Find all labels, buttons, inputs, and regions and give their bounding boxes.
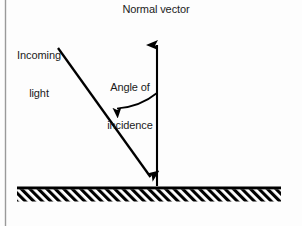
surface-top-line [17, 187, 281, 190]
angle-of-incidence-label-line1: Angle of [94, 81, 166, 94]
surface-hatching [17, 190, 281, 202]
incoming-light-label-line2: light [8, 87, 70, 100]
angle-of-incidence-label-line2: incidence [94, 119, 166, 132]
incoming-light-label-line1: Incoming [8, 49, 70, 62]
incoming-light-label: Incoming light [8, 24, 70, 124]
normal-vector-label: Normal vector [111, 3, 201, 16]
surface-group [17, 187, 281, 202]
angle-of-incidence-label: Angle of incidence [94, 56, 166, 156]
diagram-figure: Normal vector Incoming light Angle of in… [0, 0, 302, 226]
